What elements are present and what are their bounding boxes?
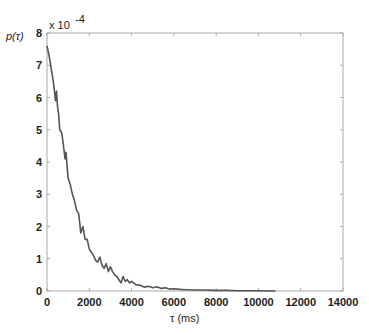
y-tick-label: 4 xyxy=(36,156,43,168)
y-tick-label: 0 xyxy=(36,285,42,297)
y-exponent-label: x 10 xyxy=(49,19,70,31)
x-axis-ticks: 02000400060008000100001200014000 xyxy=(44,33,358,308)
x-tick-label: 6000 xyxy=(162,296,186,308)
y-tick-label: 7 xyxy=(36,59,42,71)
x-tick-label: 8000 xyxy=(204,296,228,308)
x-tick-label: 4000 xyxy=(119,296,143,308)
line-chart: 012345678 020004000600080001000012000140… xyxy=(0,0,369,334)
x-axis-label: τ (ms) xyxy=(170,312,199,324)
x-tick-label: 12000 xyxy=(285,296,316,308)
x-tick-label: 2000 xyxy=(77,296,101,308)
y-tick-label: 2 xyxy=(36,221,42,233)
y-tick-label: 8 xyxy=(36,27,42,39)
y-exponent-power: -4 xyxy=(75,13,85,25)
y-axis-ticks: 012345678 xyxy=(36,27,343,297)
y-tick-label: 6 xyxy=(36,92,42,104)
x-tick-label: 10000 xyxy=(243,296,274,308)
y-tick-label: 5 xyxy=(36,124,42,136)
y-tick-label: 3 xyxy=(36,188,42,200)
y-axis-label: p(τ) xyxy=(5,30,24,42)
y-tick-label: 1 xyxy=(36,253,42,265)
x-tick-label: 0 xyxy=(44,296,50,308)
x-tick-label: 14000 xyxy=(328,296,359,308)
data-series-line xyxy=(47,46,275,291)
